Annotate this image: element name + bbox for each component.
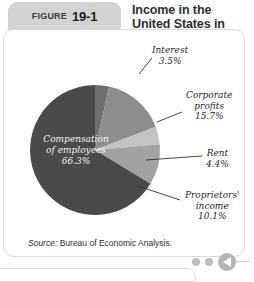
- slice-label-corporate-line2: profits: [186, 101, 232, 112]
- slice-label-corporate-value: 15.7%: [186, 111, 232, 122]
- source-text: Bureau of Economic Analysis.: [57, 238, 172, 248]
- slice-label-compensation: Compensation of employees 66.3%: [28, 134, 124, 167]
- slice-label-interest-value: 3.5%: [152, 56, 188, 67]
- slice-label-interest-name: Interest: [152, 45, 188, 56]
- slice-label-compensation-line2: of employees: [28, 145, 124, 156]
- leader-line-corporate: [157, 112, 182, 122]
- footer-decoration: [188, 252, 250, 274]
- slice-label-rent-value: 4.4%: [206, 159, 229, 170]
- page-edge: [0, 268, 196, 282]
- slice-label-rent: Rent 4.4%: [206, 148, 229, 169]
- decoration-dot-icon: [192, 258, 200, 266]
- slice-label-rent-name: Rent: [206, 148, 229, 159]
- slice-label-compensation-value: 66.3%: [28, 156, 124, 167]
- slice-label-proprietors-value: 10.1%: [185, 211, 239, 222]
- decoration-rule: [234, 261, 250, 262]
- slice-label-compensation-line1: Compensation: [28, 134, 124, 145]
- slice-label-proprietors-line1: Proprietors': [185, 190, 239, 201]
- slice-label-proprietors-line2: income: [185, 201, 239, 212]
- source-note: Source: Bureau of Economic Analysis.: [28, 238, 172, 248]
- slice-label-interest: Interest 3.5%: [152, 45, 188, 66]
- triangle-left-glyph: [223, 257, 231, 267]
- slice-label-corporate-line1: Corporate: [186, 90, 232, 101]
- leader-line-interest: [139, 58, 152, 74]
- slice-label-corporate-profits: Corporate profits 15.7%: [186, 90, 232, 122]
- leader-line-proprietors: [138, 186, 180, 200]
- source-label: Source:: [28, 238, 57, 248]
- decoration-dot-icon: [205, 258, 213, 266]
- slice-label-proprietors-income: Proprietors' income 10.1%: [185, 190, 239, 222]
